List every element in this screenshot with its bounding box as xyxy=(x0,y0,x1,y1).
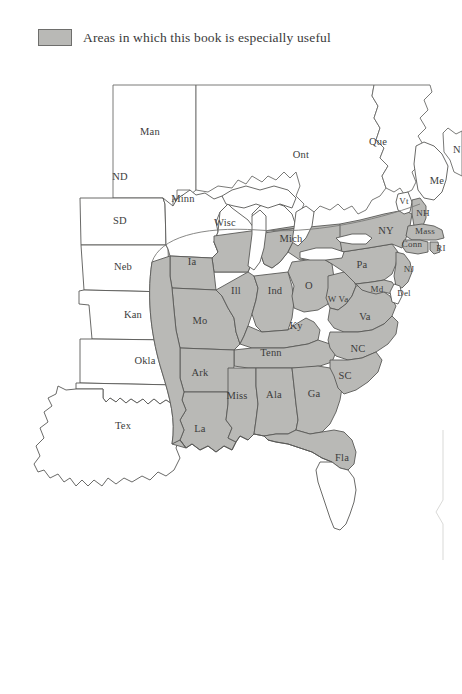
label-que: Que xyxy=(369,136,387,147)
label-nj: NJ xyxy=(404,264,415,274)
label-sd: SD xyxy=(113,215,127,226)
region-ala[interactable] xyxy=(254,368,298,436)
label-vt: Vt xyxy=(399,196,409,206)
label-miss: Miss xyxy=(226,390,247,401)
label-ill: Ill xyxy=(231,285,241,296)
region-ind[interactable] xyxy=(252,272,294,332)
region-me[interactable] xyxy=(414,142,448,200)
label-wva: W Va xyxy=(328,294,349,304)
region-man[interactable] xyxy=(113,85,196,206)
label-ny: NY xyxy=(378,225,394,236)
label-del: Del xyxy=(397,288,411,298)
label-wisc: Wisc xyxy=(214,217,236,228)
label-fla: Fla xyxy=(335,452,349,463)
label-neb: Neb xyxy=(114,261,132,272)
label-va: Va xyxy=(359,311,371,322)
label-ri: RI xyxy=(436,243,445,253)
label-minn: Minn xyxy=(171,193,195,204)
label-ia: Ia xyxy=(188,256,197,267)
label-sc: SC xyxy=(338,370,351,381)
region-fla[interactable] xyxy=(264,430,356,470)
label-tenn: Tenn xyxy=(260,347,282,358)
map-svg: Man Ont Que N ND SD Neb Kan Okla Tex Min… xyxy=(0,0,462,694)
label-ont: Ont xyxy=(293,149,309,160)
label-pa: Pa xyxy=(357,259,368,270)
label-nb: N xyxy=(453,144,461,155)
lake-superior xyxy=(222,186,296,208)
label-kan: Kan xyxy=(124,309,143,320)
label-ga: Ga xyxy=(308,388,321,399)
label-ind: Ind xyxy=(268,285,283,296)
label-okla: Okla xyxy=(134,355,155,366)
label-man: Man xyxy=(140,126,160,137)
label-nh: NH xyxy=(416,208,430,218)
label-ark: Ark xyxy=(192,367,209,378)
label-ky: Ky xyxy=(289,320,303,331)
region-fla-peninsula[interactable] xyxy=(316,462,356,530)
label-md: Md xyxy=(371,284,384,294)
map-page: Areas in which this book is especially u… xyxy=(0,0,462,694)
region-miss[interactable] xyxy=(226,368,258,442)
label-mich: Mich xyxy=(280,233,304,244)
page-edge-artifact xyxy=(436,430,443,560)
label-ala: Ala xyxy=(266,389,282,400)
label-oh: O xyxy=(305,280,313,291)
label-mo: Mo xyxy=(193,315,208,326)
label-mass: Mass xyxy=(415,226,435,236)
label-tex: Tex xyxy=(115,420,132,431)
label-me: Me xyxy=(430,175,445,186)
label-nc: NC xyxy=(351,343,366,354)
label-conn: Conn xyxy=(402,239,423,249)
label-nd: ND xyxy=(112,171,128,182)
map-figure: Man Ont Que N ND SD Neb Kan Okla Tex Min… xyxy=(0,0,462,694)
label-la: La xyxy=(194,423,206,434)
